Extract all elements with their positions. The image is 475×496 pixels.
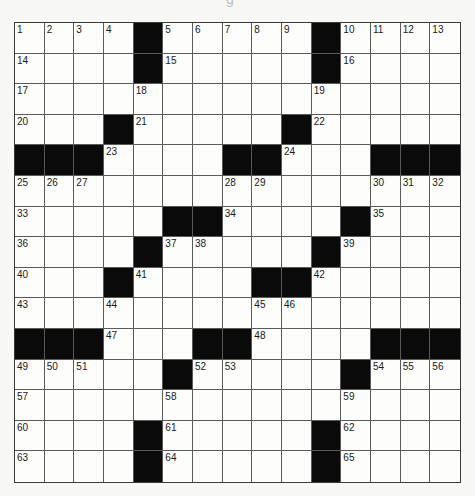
grid-cell[interactable] [341,115,371,146]
grid-cell[interactable]: 5 [163,23,193,54]
grid-cell[interactable]: 57 [15,390,45,421]
grid-cell[interactable] [252,390,282,421]
grid-cell[interactable]: 63 [15,451,45,482]
grid-cell[interactable]: 24 [282,145,312,176]
grid-cell[interactable] [252,115,282,146]
grid-cell[interactable] [401,115,431,146]
grid-cell[interactable] [193,54,223,85]
grid-cell[interactable]: 65 [341,451,371,482]
grid-cell[interactable]: 12 [401,23,431,54]
grid-cell[interactable]: 51 [74,360,104,391]
grid-cell[interactable] [74,237,104,268]
grid-cell[interactable] [74,84,104,115]
grid-cell[interactable] [252,237,282,268]
grid-cell[interactable]: 1 [15,23,45,54]
grid-cell[interactable]: 35 [371,207,401,238]
grid-cell[interactable] [282,451,312,482]
grid-cell[interactable] [193,268,223,299]
grid-cell[interactable] [282,84,312,115]
grid-cell[interactable]: 20 [15,115,45,146]
grid-cell[interactable] [371,237,401,268]
grid-cell[interactable] [430,207,460,238]
grid-cell[interactable] [430,390,460,421]
grid-cell[interactable] [223,115,253,146]
grid-cell[interactable] [371,268,401,299]
grid-cell[interactable] [430,421,460,452]
grid-cell[interactable]: 7 [223,23,253,54]
grid-cell[interactable] [163,115,193,146]
grid-cell[interactable]: 18 [134,84,164,115]
grid-cell[interactable]: 33 [15,207,45,238]
grid-cell[interactable]: 2 [45,23,75,54]
grid-cell[interactable] [430,268,460,299]
grid-cell[interactable] [401,451,431,482]
grid-cell[interactable] [74,207,104,238]
grid-cell[interactable]: 54 [371,360,401,391]
grid-cell[interactable] [45,237,75,268]
grid-cell[interactable]: 59 [341,390,371,421]
grid-cell[interactable] [282,390,312,421]
grid-cell[interactable] [223,84,253,115]
grid-cell[interactable]: 10 [341,23,371,54]
grid-cell[interactable]: 64 [163,451,193,482]
grid-cell[interactable]: 50 [45,360,75,391]
grid-cell[interactable] [430,298,460,329]
grid-cell[interactable] [252,421,282,452]
grid-cell[interactable]: 16 [341,54,371,85]
grid-cell[interactable]: 29 [252,176,282,207]
grid-cell[interactable] [223,421,253,452]
grid-cell[interactable] [223,298,253,329]
grid-cell[interactable] [104,207,134,238]
grid-cell[interactable] [312,298,342,329]
grid-cell[interactable] [134,390,164,421]
grid-cell[interactable]: 41 [134,268,164,299]
grid-cell[interactable] [74,54,104,85]
grid-cell[interactable] [104,451,134,482]
grid-cell[interactable]: 56 [430,360,460,391]
grid-cell[interactable]: 4 [104,23,134,54]
grid-cell[interactable] [223,451,253,482]
grid-cell[interactable] [341,145,371,176]
grid-cell[interactable]: 3 [74,23,104,54]
grid-cell[interactable] [252,54,282,85]
grid-cell[interactable] [163,329,193,360]
grid-cell[interactable] [282,360,312,391]
grid-cell[interactable]: 32 [430,176,460,207]
grid-cell[interactable] [193,145,223,176]
grid-cell[interactable] [223,390,253,421]
grid-cell[interactable] [401,207,431,238]
grid-cell[interactable]: 28 [223,176,253,207]
grid-cell[interactable] [252,207,282,238]
grid-cell[interactable] [163,268,193,299]
grid-cell[interactable]: 44 [104,298,134,329]
grid-cell[interactable]: 61 [163,421,193,452]
grid-cell[interactable]: 53 [223,360,253,391]
grid-cell[interactable] [252,84,282,115]
grid-cell[interactable]: 14 [15,54,45,85]
grid-cell[interactable] [104,421,134,452]
grid-cell[interactable]: 27 [74,176,104,207]
grid-cell[interactable]: 23 [104,145,134,176]
grid-cell[interactable] [104,360,134,391]
grid-cell[interactable] [341,84,371,115]
grid-cell[interactable]: 15 [163,54,193,85]
grid-cell[interactable]: 48 [252,329,282,360]
grid-cell[interactable] [134,360,164,391]
grid-cell[interactable] [282,54,312,85]
grid-cell[interactable]: 60 [15,421,45,452]
grid-cell[interactable] [312,329,342,360]
grid-cell[interactable]: 39 [341,237,371,268]
grid-cell[interactable] [193,421,223,452]
grid-cell[interactable] [134,145,164,176]
grid-cell[interactable] [401,54,431,85]
grid-cell[interactable] [341,329,371,360]
grid-cell[interactable] [193,298,223,329]
grid-cell[interactable]: 45 [252,298,282,329]
grid-cell[interactable]: 47 [104,329,134,360]
grid-cell[interactable]: 43 [15,298,45,329]
grid-cell[interactable] [371,84,401,115]
grid-cell[interactable] [134,207,164,238]
grid-cell[interactable]: 46 [282,298,312,329]
grid-cell[interactable] [282,176,312,207]
grid-cell[interactable] [193,176,223,207]
